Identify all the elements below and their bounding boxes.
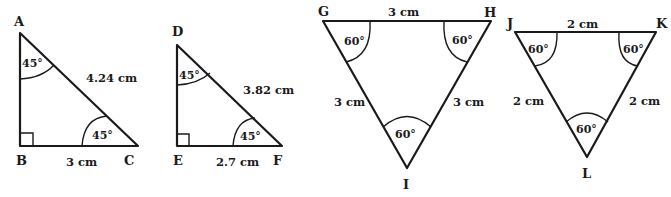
side-label-jl: 2 cm [513, 94, 544, 108]
triangle-jkl: J K L 60° 60° 60° 2 cm 2 cm 2 cm [506, 16, 668, 181]
vertex-label-a: A [13, 14, 25, 29]
side-label-gh: 3 cm [388, 5, 419, 19]
vertex-label-e: E [173, 153, 183, 168]
side-label-bc: 3 cm [66, 155, 97, 169]
side-label-jk: 2 cm [567, 17, 598, 31]
triangle-abc: A B C 45° 45° 4.24 cm 3 cm [13, 14, 138, 169]
side-label-df: 3.82 cm [243, 83, 294, 97]
angle-label-l: 60° [576, 123, 597, 136]
side-label-hi: 3 cm [453, 95, 484, 109]
angle-label-j: 60° [528, 43, 549, 56]
right-angle-marker-b [20, 133, 33, 146]
vertex-label-i: I [403, 177, 409, 192]
angle-label-k: 60° [623, 43, 644, 56]
side-label-gi: 3 cm [334, 95, 365, 109]
triangle-abc-edges [20, 33, 138, 146]
angle-label-g: 60° [344, 35, 365, 48]
vertex-label-b: B [16, 153, 27, 168]
angle-label-f: 45° [240, 130, 261, 143]
vertex-label-d: D [172, 24, 183, 39]
angle-label-h: 60° [452, 34, 473, 47]
angle-label-a: 45° [22, 57, 43, 70]
right-angle-marker-e [177, 134, 189, 146]
vertex-label-j: J [506, 16, 513, 31]
angle-label-d: 45° [179, 69, 200, 82]
side-label-ef: 2.7 cm [216, 155, 259, 169]
geometry-figure: A B C 45° 45° 4.24 cm 3 cm D E F 45° 45°… [0, 0, 671, 197]
side-label-kl: 2 cm [629, 94, 660, 108]
triangle-ghi: G H I 60° 60° 60° 3 cm 3 cm 3 cm [318, 4, 496, 192]
angle-label-c: 45° [92, 129, 113, 142]
vertex-label-l: L [582, 166, 591, 181]
vertex-label-c: C [124, 153, 134, 168]
angle-arc-i [383, 117, 431, 128]
triangle-def: D E F 45° 45° 3.82 cm 2.7 cm [172, 24, 294, 169]
angle-label-i: 60° [395, 128, 416, 141]
vertex-label-g: G [318, 4, 329, 19]
side-label-ac: 4.24 cm [86, 71, 137, 85]
vertex-label-h: H [484, 5, 496, 20]
vertex-label-k: K [656, 16, 668, 31]
angle-arc-l [566, 113, 608, 122]
vertex-label-f: F [273, 153, 283, 168]
